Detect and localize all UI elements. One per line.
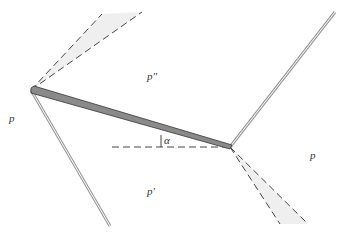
right-shock-wave xyxy=(230,12,335,147)
label-p-left: p xyxy=(8,112,15,124)
upper-fan-dashed-line-2 xyxy=(31,12,142,90)
label-alpha: α xyxy=(164,134,170,146)
label-p-right: p xyxy=(309,149,316,161)
label-p-double-prime: p″ xyxy=(146,70,158,82)
label-p-prime: p′ xyxy=(146,185,156,197)
flow-diagram: p p″ α p′ p xyxy=(0,0,341,239)
lower-fan-dashed-line-1 xyxy=(230,147,280,224)
